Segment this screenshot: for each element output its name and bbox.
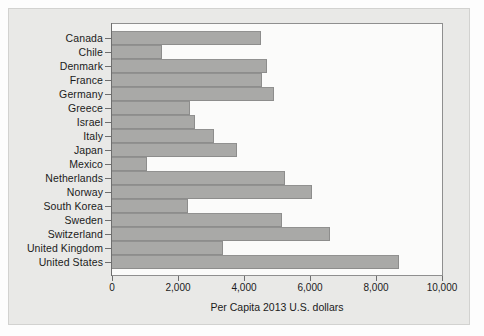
bar-canada (112, 31, 261, 45)
category-axis: CanadaChileDenmarkFranceGermanyGreeceIsr… (9, 31, 103, 269)
chart-panel: CanadaChileDenmarkFranceGermanyGreeceIsr… (8, 8, 470, 325)
category-tick (105, 192, 111, 193)
category-label-france: France (9, 73, 103, 87)
value-tick-label: 2,000 (165, 282, 190, 293)
category-label-chile: Chile (9, 45, 103, 59)
x-axis-title: Per Capita 2013 U.S. dollars (111, 301, 443, 313)
category-tick (105, 66, 111, 67)
category-label-greece: Greece (9, 101, 103, 115)
category-tick (105, 38, 111, 39)
category-tick (105, 262, 111, 263)
bars-layer (112, 31, 442, 269)
category-tick (105, 178, 111, 179)
bar-united-kingdom (112, 241, 223, 255)
value-tick-mark (178, 276, 179, 281)
bar-greece (112, 101, 190, 115)
bar-denmark (112, 59, 267, 73)
category-tick (105, 122, 111, 123)
value-tick-mark (376, 276, 377, 281)
bar-mexico (112, 157, 147, 171)
value-tick-mark (112, 276, 113, 281)
category-label-switzerland: Switzerland (9, 227, 103, 241)
category-label-mexico: Mexico (9, 157, 103, 171)
category-label-sweden: Sweden (9, 213, 103, 227)
category-tick (105, 136, 111, 137)
category-label-united-states: United States (9, 255, 103, 269)
bar-israel (112, 115, 195, 129)
category-tick (105, 220, 111, 221)
category-label-netherlands: Netherlands (9, 171, 103, 185)
category-tick (105, 234, 111, 235)
category-label-israel: Israel (9, 115, 103, 129)
value-tick-label: 6,000 (297, 282, 322, 293)
bar-germany (112, 87, 274, 101)
category-label-norway: Norway (9, 185, 103, 199)
bar-norway (112, 185, 312, 199)
category-label-united-kingdom: United Kingdom (9, 241, 103, 255)
category-label-canada: Canada (9, 31, 103, 45)
figure-root: CanadaChileDenmarkFranceGermanyGreeceIsr… (0, 0, 484, 336)
category-tick (105, 150, 111, 151)
value-tick-label: 0 (109, 282, 115, 293)
category-label-south-korea: South Korea (9, 199, 103, 213)
category-tick (105, 94, 111, 95)
category-tick (105, 164, 111, 165)
bar-sweden (112, 213, 282, 227)
category-label-italy: Italy (9, 129, 103, 143)
category-label-denmark: Denmark (9, 59, 103, 73)
bar-switzerland (112, 227, 330, 241)
category-label-germany: Germany (9, 87, 103, 101)
category-tick (105, 52, 111, 53)
bar-japan (112, 143, 237, 157)
category-tick (105, 80, 111, 81)
value-tick-label: 4,000 (231, 282, 256, 293)
bar-south-korea (112, 199, 188, 213)
category-tick (105, 108, 111, 109)
value-tick-mark (442, 276, 443, 281)
bar-chile (112, 45, 162, 59)
bar-united-states (112, 255, 399, 269)
category-tick (105, 248, 111, 249)
bar-france (112, 73, 262, 87)
category-label-japan: Japan (9, 143, 103, 157)
value-tick-mark (244, 276, 245, 281)
value-tick-label: 8,000 (363, 282, 388, 293)
category-tick (105, 206, 111, 207)
value-tick-mark (310, 276, 311, 281)
bar-italy (112, 129, 214, 143)
bar-netherlands (112, 171, 285, 185)
value-tick-label: 10,000 (427, 282, 458, 293)
